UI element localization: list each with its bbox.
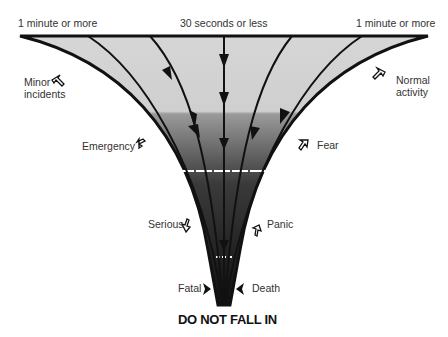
pointer-panic-icon bbox=[253, 225, 261, 236]
label-right-time: 1 minute or more bbox=[356, 17, 435, 29]
label-incidents: incidents bbox=[24, 88, 65, 100]
label-normal: Normal bbox=[396, 74, 430, 86]
funnel-diagram bbox=[0, 0, 448, 337]
label-left-time: 1 minute or more bbox=[18, 17, 97, 29]
label-fatal: Fatal bbox=[178, 282, 201, 294]
pointer-normal-icon bbox=[373, 68, 385, 79]
label-activity: activity bbox=[396, 86, 428, 98]
label-serious: Serious bbox=[148, 218, 184, 230]
label-emergency: Emergency bbox=[82, 140, 135, 152]
pointer-emergency-icon bbox=[137, 139, 145, 148]
label-fear: Fear bbox=[317, 139, 339, 151]
label-death: Death bbox=[252, 282, 280, 294]
label-minor: Minor bbox=[24, 76, 50, 88]
pointer-minor-icon bbox=[52, 75, 64, 86]
label-panic: Panic bbox=[267, 218, 293, 230]
pointer-death-icon bbox=[236, 283, 244, 295]
footer-title: DO NOT FALL IN bbox=[178, 312, 277, 327]
pointer-fear-icon bbox=[299, 140, 308, 150]
label-center-time: 30 seconds or less bbox=[180, 17, 268, 29]
